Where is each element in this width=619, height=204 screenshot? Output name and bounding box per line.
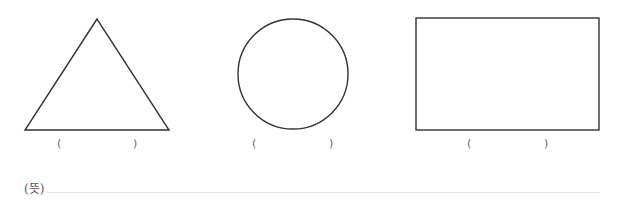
- meaning-label: (뜻): [24, 179, 44, 196]
- rectangle-shape: [416, 18, 599, 130]
- triangle-shape: [25, 19, 169, 130]
- circle-shape: [238, 19, 348, 129]
- circle-answer-open-paren: (: [252, 137, 256, 150]
- meaning-answer-line: [47, 192, 600, 193]
- triangle-answer-close-paren: ): [133, 137, 137, 150]
- rectangle-answer-open-paren: (: [467, 137, 471, 150]
- rectangle-answer-close-paren: ): [544, 137, 548, 150]
- triangle-answer-open-paren: (: [57, 137, 61, 150]
- circle-answer-close-paren: ): [329, 137, 333, 150]
- shapes-canvas: [0, 0, 619, 204]
